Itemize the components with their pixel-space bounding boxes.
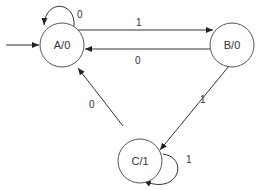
label-c-self: 1: [186, 154, 192, 165]
state-b: B/0: [210, 23, 254, 67]
transition-b-to-c: [160, 66, 229, 150]
state-c: C/1: [118, 139, 162, 183]
state-diagram: 0 1 0 1 0 1 A/0 B/0 C/1: [0, 0, 258, 190]
transition-c-to-a: [78, 68, 123, 126]
label-b-to-a: 0: [135, 55, 141, 66]
label-c-to-a: 0: [89, 99, 95, 110]
state-b-label: B/0: [224, 39, 241, 51]
state-a-label: A/0: [54, 39, 71, 51]
label-a-to-b: 1: [136, 17, 142, 28]
label-b-to-c: 1: [200, 94, 206, 105]
state-a: A/0: [40, 23, 84, 67]
state-c-label: C/1: [131, 155, 148, 167]
label-a-self: 0: [77, 9, 83, 20]
